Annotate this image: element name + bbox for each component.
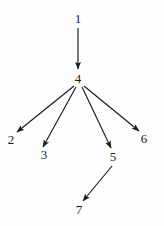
- graph-node-4[interactable]: 4: [75, 72, 82, 85]
- graph-edge: [17, 86, 74, 132]
- graph-node-3[interactable]: 3: [41, 148, 48, 161]
- graph-edge: [83, 166, 112, 201]
- diagram-canvas: 1423567: [0, 0, 164, 226]
- graph-node-7[interactable]: 7: [76, 203, 83, 216]
- graph-node-6[interactable]: 6: [141, 132, 148, 145]
- graph-node-2[interactable]: 2: [8, 133, 15, 146]
- graph-node-1[interactable]: 1: [75, 12, 82, 25]
- graph-edge: [43, 87, 76, 147]
- graph-edges-layer: [0, 0, 164, 226]
- graph-node-5[interactable]: 5: [110, 150, 117, 163]
- edge-group: [17, 28, 139, 201]
